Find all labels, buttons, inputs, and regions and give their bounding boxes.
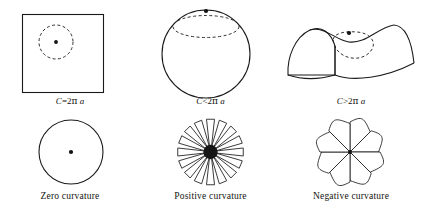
sphere-outline [162,10,250,98]
center-dot-icon [54,40,58,44]
formula-positive: C<2π a [140,96,281,106]
formula-pi-negative: π [352,96,358,106]
rosette-svg [140,114,281,190]
panel-positive-curvature: C<2π a Positive curvature [140,0,281,212]
saddle-left-hump [288,28,335,75]
saddle-top-ridge [310,25,394,42]
pinwheel-svg [281,114,421,190]
caption-positive-curvature: Positive curvature [140,191,281,201]
overlapping-pinwheel [281,114,421,190]
panel-negative-curvature: C>2π a Negative curvature [281,0,421,212]
panel-zero-curvature: C=2π a Zero curvature [0,0,140,212]
plain-disc [0,114,140,190]
formula-radius-negative: a [361,96,366,106]
caption-negative-curvature: Negative curvature [281,191,421,201]
saddle-bottom-edge [335,63,414,78]
flat-plane-square [0,0,140,100]
saddle-right-edge [394,25,414,63]
sphere-pole-dot-icon [204,9,208,13]
rosette-hub [203,145,217,159]
dashed-saddle-circle-icon [333,32,373,58]
gapped-rosette [140,114,281,190]
curvature-figure: C=2π a Zero curvature C<2π a P [0,0,421,212]
formula-radius-zero: a [80,96,85,106]
saddle-center-dot-icon [347,31,351,35]
sphere [140,0,281,100]
formula-pi-positive: π [212,96,218,106]
dashed-latitude-circle-icon [173,16,239,38]
disc-center-dot-icon [69,150,73,154]
formula-pi-zero: π [71,96,77,106]
caption-zero-curvature: Zero curvature [0,191,140,201]
formula-negative: C>2π a [281,96,421,106]
saddle-surface [281,0,421,100]
formula-radius-positive: a [220,96,225,106]
pinwheel-center-dot-icon [348,150,352,154]
formula-zero: C=2π a [0,96,140,106]
